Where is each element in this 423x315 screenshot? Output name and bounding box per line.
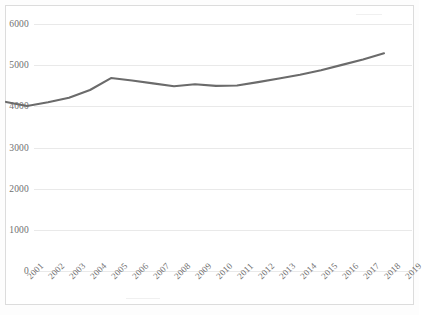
data-series-line xyxy=(6,6,384,253)
x-axis-tick-labels: 2001200220032004200520062007200820092010… xyxy=(34,274,412,315)
chart-frame-border: 0100020003000400050006000 20012002200320… xyxy=(5,5,414,305)
